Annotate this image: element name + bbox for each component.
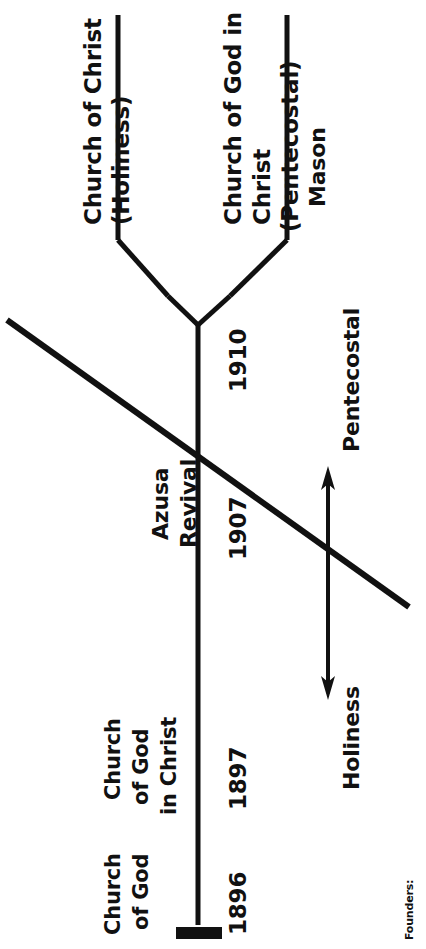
label-origin-church-line1: Church (103, 853, 124, 935)
branch-left-diagonal (168, 296, 198, 325)
label-pentecostal-parenthetical: (Pentecostal) (279, 61, 302, 232)
label-holiness-parenthetical: (Holiness) (110, 96, 133, 225)
label-founders-caption: Founders: (404, 880, 415, 940)
label-year-1907: 1907 (227, 497, 250, 560)
diagram-canvas: Church of Christ (Holiness) Church of Go… (0, 0, 426, 949)
label-holiness-pole: Holiness (341, 686, 363, 790)
label-revival: Revival (178, 459, 200, 548)
branch-left-elbow (118, 240, 168, 296)
trunk-base-bar (176, 927, 222, 939)
label-year-1897: 1897 (227, 747, 250, 810)
label-origin-church-line2: of God (131, 854, 152, 930)
label-founder-mason: Mason (307, 127, 329, 207)
branch-right-diagonal (198, 296, 230, 325)
label-year-1896: 1896 (227, 872, 250, 935)
label-church-of-christ: Church of Christ (82, 18, 105, 225)
label-second-church-line1: Church (103, 718, 124, 800)
label-second-church-line2: of God (131, 729, 152, 805)
label-pentecostal-pole: Pentecostal (341, 308, 363, 452)
label-church-of-god-in: Church of God in (222, 12, 245, 225)
label-second-church-line3: in Christ (159, 717, 180, 815)
label-azusa: Azusa (150, 468, 172, 540)
label-christ: Christ (251, 149, 274, 225)
branch-right-elbow (230, 240, 287, 296)
diagram-line-art (0, 0, 426, 949)
label-year-1910: 1910 (227, 329, 250, 392)
